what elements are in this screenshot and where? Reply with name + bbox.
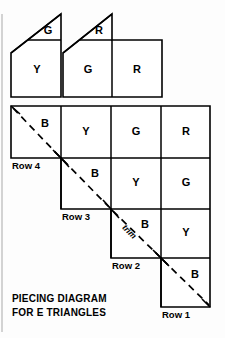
cell-r4-c3: G: [132, 125, 141, 137]
cell-r3-c2: Y: [132, 176, 140, 188]
cell-r4-c1: B: [41, 117, 49, 129]
row-label-2: Row 2: [112, 260, 140, 271]
cell-r3-c3: G: [182, 176, 191, 188]
unit-left-outline: [11, 14, 61, 97]
top-unit-left: G Y: [11, 14, 61, 97]
unit-right-square-label: G: [84, 63, 93, 75]
row-label-1: Row 1: [162, 309, 191, 320]
cell-r4-c2: Y: [82, 125, 90, 137]
cell-r2-c2: Y: [182, 226, 190, 238]
row-label-4: Row 4: [12, 160, 41, 171]
cell-r3-c1: B: [91, 167, 99, 179]
piecing-diagram-figure: G Y R G R: [0, 0, 225, 338]
piecing-diagram-page: G Y R G R: [0, 0, 225, 338]
cell-r4-c4: R: [182, 125, 190, 137]
row-1-cells: B: [191, 268, 199, 280]
unit-left-square-label: Y: [33, 63, 41, 75]
cell-r2-c1: B: [141, 218, 149, 230]
unit-left-triangle-label: G: [44, 24, 53, 36]
top-unit-right: R G R: [63, 14, 162, 97]
unit-right-triangle-label: R: [95, 24, 103, 36]
unit-right-extra-square-label: R: [133, 63, 141, 75]
cell-r1-c1: B: [191, 268, 199, 280]
caption-line-1: PIECING DIAGRAM: [12, 293, 107, 304]
figure-caption: PIECING DIAGRAM FOR E TRIANGLES: [12, 293, 107, 318]
row-label-3: Row 3: [62, 211, 90, 222]
caption-line-2: FOR E TRIANGLES: [12, 307, 106, 318]
